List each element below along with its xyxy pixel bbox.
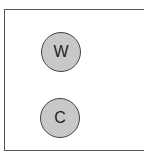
node-c: C	[40, 98, 80, 138]
node-c-label: C	[54, 109, 66, 127]
node-w: W	[41, 32, 81, 72]
node-w-label: W	[53, 43, 68, 61]
